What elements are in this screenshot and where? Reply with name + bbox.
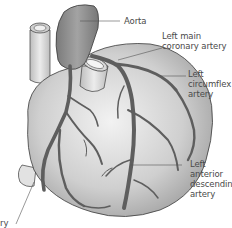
label-left-circumflex-artery: Left circumflex artery — [188, 69, 231, 99]
label-line: artery — [190, 189, 232, 199]
label-line: Left — [188, 69, 231, 79]
label-aorta: Aorta — [124, 16, 146, 26]
label-left-anterior-descending-artery: Left anterior descending artery — [190, 159, 232, 199]
label-left-main-coronary-artery: Left main coronary artery — [162, 31, 227, 51]
leader-right-coronary — [16, 182, 34, 224]
label-right-coronary-artery: ry — [0, 218, 8, 228]
label-line: anterior — [190, 169, 232, 179]
label-line: Aorta — [124, 16, 146, 26]
label-line: Left main — [162, 31, 227, 41]
label-line: circumflex — [188, 79, 231, 89]
label-line: Left — [190, 159, 232, 169]
label-line: artery — [188, 89, 231, 99]
label-line: ry — [0, 218, 8, 228]
label-line: coronary artery — [162, 41, 227, 51]
label-line: descending — [190, 179, 232, 189]
superior-vena-cava — [30, 23, 50, 83]
